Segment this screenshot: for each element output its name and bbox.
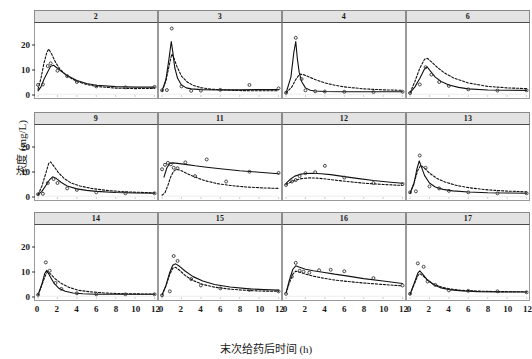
observed-data-point (41, 192, 44, 195)
panel-subject-12: 12 (282, 112, 406, 212)
panel-plot-area (406, 23, 530, 99)
observed-data-point (447, 189, 450, 192)
observed-data-point (329, 268, 332, 271)
panel-strip-label: 9 (34, 112, 158, 125)
x-tick-label: 8 (362, 304, 367, 314)
panel-plot-area (158, 225, 282, 301)
chart-figure: 浓度 (mg/L) 末次给药后时间 (h) 201020346901020111… (0, 0, 532, 359)
y-tick-mark (32, 297, 35, 298)
panel-row: 1401020024681012150246810121602468101217… (34, 212, 530, 322)
y-tick-mark (32, 272, 35, 273)
observed-data-point (225, 180, 228, 183)
series-individual-prediction (162, 42, 279, 91)
panel-strip-label: 17 (406, 212, 530, 225)
x-tick-label: 6 (342, 304, 347, 314)
observed-data-point (165, 89, 168, 92)
series-individual-prediction (410, 161, 527, 193)
observed-data-point (323, 164, 326, 167)
panel-plot-area (282, 23, 406, 99)
panel-row: 901020111213 (34, 112, 530, 212)
observed-data-point (418, 83, 421, 86)
x-tick-label: 4 (74, 304, 79, 314)
observed-data-point (54, 282, 57, 285)
x-tick-label: 10 (379, 304, 388, 314)
observed-data-point (48, 269, 51, 272)
x-tick-label: 10 (503, 304, 512, 314)
y-tick-label: 0 (26, 90, 31, 100)
panel-grid: 2010203469010201112131401020024681012150… (34, 10, 530, 322)
observed-data-point (56, 182, 59, 185)
panel-strip-label: 12 (282, 112, 406, 125)
observed-data-point (277, 171, 280, 174)
series-individual-prediction (286, 42, 403, 94)
panel-subject-14: 1401020024681012 (34, 212, 158, 322)
observed-data-point (176, 167, 179, 170)
observed-data-point (95, 191, 98, 194)
observed-data-point (372, 182, 375, 185)
observed-data-point (56, 69, 59, 72)
series-population-prediction (38, 272, 155, 295)
x-tick-label: 4 (322, 304, 327, 314)
observed-data-point (161, 168, 164, 171)
series-individual-prediction (410, 271, 527, 295)
x-tick-label: 8 (114, 304, 119, 314)
panel-subject-11: 11 (158, 112, 282, 212)
observed-data-point (428, 185, 431, 188)
observed-data-point (44, 261, 47, 264)
y-tick-label: 0 (26, 192, 31, 202)
y-tick-label: 10 (21, 267, 30, 277)
y-tick-mark (32, 45, 35, 46)
y-tick-mark (32, 95, 35, 96)
panel-plot-area (34, 23, 158, 99)
observed-data-point (438, 81, 441, 84)
panel-subject-4: 4 (282, 10, 406, 112)
observed-data-point (205, 158, 208, 161)
observed-data-point (194, 175, 197, 178)
observed-data-point (422, 265, 425, 268)
panel-strip-label: 16 (282, 212, 406, 225)
panel-plot-area (282, 225, 406, 301)
y-tick-mark (32, 147, 35, 148)
series-individual-prediction (38, 270, 155, 295)
x-tick-label: 6 (94, 304, 99, 314)
x-tick-label: 8 (486, 304, 491, 314)
observed-data-point (298, 175, 301, 178)
observed-data-point (248, 83, 251, 86)
series-individual-prediction (410, 67, 527, 93)
x-axis-ticks: 024681012 (406, 302, 530, 316)
observed-data-point (172, 255, 175, 258)
observed-data-point (298, 269, 301, 272)
series-individual-prediction (38, 65, 155, 91)
observed-data-point (447, 289, 450, 292)
x-axis-ticks: 024681012 (158, 302, 282, 316)
observed-data-point (49, 62, 52, 65)
x-tick-label: 0 (283, 304, 288, 314)
panel-strip-label: 14 (34, 212, 158, 225)
x-tick-label: 10 (131, 304, 140, 314)
x-tick-label: 8 (238, 304, 243, 314)
panel-subject-13: 13 (406, 112, 530, 212)
y-tick-mark (32, 172, 35, 173)
panel-strip-label: 3 (158, 10, 282, 23)
observed-data-point (168, 290, 171, 293)
observed-data-point (294, 36, 297, 39)
observed-data-point (318, 269, 321, 272)
observed-data-point (277, 87, 280, 90)
series-individual-prediction (162, 264, 279, 295)
x-tick-label: 12 (523, 304, 532, 314)
observed-data-point (426, 280, 429, 283)
observed-data-point (66, 187, 69, 190)
series-individual-prediction (164, 163, 279, 177)
y-axis-ticks: 01020 (14, 225, 32, 301)
observed-data-point (41, 83, 44, 86)
panel-strip-label: 6 (406, 10, 530, 23)
series-population-prediction (38, 49, 155, 89)
series-population-prediction (162, 169, 279, 195)
x-tick-label: 2 (427, 304, 432, 314)
observed-data-point (304, 89, 307, 92)
panel-plot-area (158, 23, 282, 99)
x-axis-ticks: 024681012 (282, 302, 406, 316)
y-tick-label: 10 (21, 167, 30, 177)
y-tick-mark (32, 247, 35, 248)
observed-data-point (190, 89, 193, 92)
